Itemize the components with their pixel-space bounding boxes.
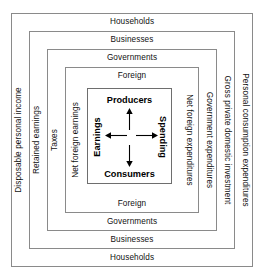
ring-governments-left-label: Taxes [51,129,59,151]
arrow-left-icon [105,131,127,140]
core-spending-label: Spending [158,116,168,158]
ring-households-top-label: Households [11,18,253,26]
ring-governments-right-label: Government expenditures [205,92,213,189]
ring-households-left-label: Disposable personal income [15,87,23,192]
diagram-canvas: Households Households Disposable persona… [0,0,264,279]
ring-foreign-bottom-label: Foreign [65,200,199,208]
ring-foreign-top-label: Foreign [65,72,199,80]
arrow-down-icon [125,145,134,167]
ring-businesses-top-label: Businesses [29,36,235,44]
ring-governments-bottom-label: Governments [47,218,217,226]
core-earnings-label: Earnings [92,117,102,156]
ring-households-bottom-label: Households [11,254,253,262]
core-producers-label: Producers [87,95,172,105]
ring-foreign-right-label: Net foreign expenditures [185,94,193,186]
ring-households-right-label: Personal consumption expenditures [241,73,249,206]
ring-businesses-left-label: Retained earnings [33,106,41,174]
arrow-right-icon [136,131,158,140]
ring-governments-top-label: Governments [47,54,217,62]
core-consumers-label: Consumers [87,169,172,179]
ring-foreign-left-label: Net foreign earnings [72,102,80,178]
ring-businesses-bottom-label: Businesses [29,236,235,244]
arrow-up-icon [125,108,134,130]
ring-businesses-right-label: Gross private domestic investment [223,76,231,205]
